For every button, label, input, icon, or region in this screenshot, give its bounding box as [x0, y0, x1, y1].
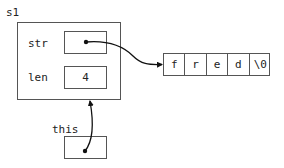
pointer-arrow-str: [84, 40, 162, 65]
arrows-layer: [0, 0, 284, 168]
pointer-arrow-this: [83, 101, 92, 153]
